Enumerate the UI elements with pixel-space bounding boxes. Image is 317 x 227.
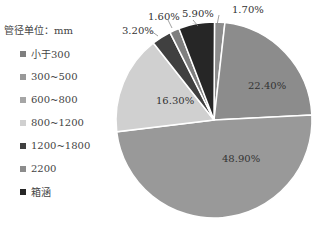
slice-label: 5.90% [182,8,214,19]
legend-item: 800~1200 [20,111,90,134]
legend-swatch [20,166,26,172]
slice-label: 48.90% [222,153,260,164]
slice-label: 16.30% [156,95,194,106]
legend-label: 600~800 [31,94,78,105]
pie-slice [117,115,312,218]
slice-label: 3.20% [122,25,154,36]
legend-item: 600~800 [20,88,90,111]
legend-item: 1200~1800 [20,134,90,157]
slice-label: 1.70% [232,4,264,15]
legend-swatch [20,97,26,103]
legend-swatch [20,120,26,126]
legend-swatch [20,143,26,149]
legend-title: 管径单位：mm [4,22,90,37]
legend-label: 300~500 [31,71,78,82]
pie-slice [214,23,312,120]
legend-label: 2200 [31,163,56,174]
slice-label: 22.40% [248,80,286,91]
legend-label: 800~1200 [31,117,84,128]
legend-item: 300~500 [20,65,90,88]
legend: 管径单位：mm 小于300300~500600~800800~12001200~… [4,22,90,203]
legend-item: 2200 [20,157,90,180]
legend-label: 箱涵 [31,184,51,199]
slice-label: 1.60% [148,11,180,22]
legend-swatch [20,74,26,80]
legend-swatch [20,189,26,195]
legend-swatch [20,51,26,57]
legend-item: 箱涵 [20,180,90,203]
legend-label: 小于300 [31,46,70,61]
legend-label: 1200~1800 [31,140,90,151]
legend-item: 小于300 [20,42,90,65]
